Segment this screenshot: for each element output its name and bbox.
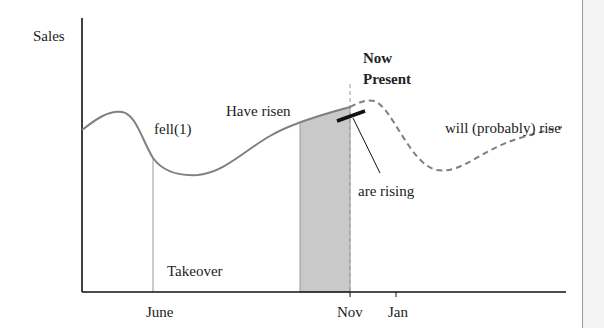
have-risen-shaded-area	[300, 107, 350, 292]
takeover-label: Takeover	[167, 264, 223, 279]
nov-tick-label: Nov	[337, 305, 363, 320]
are-rising-pointer	[353, 118, 380, 173]
y-axis-label: Sales	[33, 29, 65, 44]
present-label: Present	[363, 72, 411, 87]
are-rising-label: are rising	[358, 184, 414, 199]
now-label: Now	[363, 51, 392, 66]
will-rise-label: will (probably) rise	[445, 121, 561, 136]
june-tick-label: June	[146, 305, 174, 320]
fell-label: fell(1)	[154, 122, 191, 137]
jan-tick-label: Jan	[388, 305, 408, 320]
have-risen-label: Have risen	[226, 104, 291, 119]
